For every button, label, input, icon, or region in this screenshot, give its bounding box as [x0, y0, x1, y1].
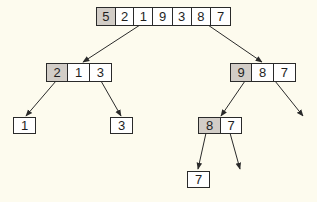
node-root: 5 2 1 9 3 8 7: [96, 7, 231, 26]
right-cell: 8: [252, 64, 273, 81]
root-cell: 9: [153, 8, 173, 25]
root-cell-pivot: 5: [97, 8, 116, 25]
edge-right-to-right-left: [221, 81, 245, 116]
root-cell: 1: [134, 8, 153, 25]
root-cell: 7: [211, 8, 230, 25]
right-cell: 7: [274, 64, 295, 81]
right-cell-pivot: 9: [231, 64, 252, 81]
leaf-cell: 3: [111, 118, 132, 133]
edges-layer: [0, 0, 317, 202]
quicksort-tree-diagram: 5 2 1 9 3 8 7 2 1 3 9 8 7 1 3 8 7 7: [0, 0, 317, 202]
edge-root-to-right: [208, 25, 262, 62]
node-left: 2 1 3: [46, 63, 112, 82]
node-right-left: 8 7: [198, 117, 242, 134]
node-right-left-left-leaf: 7: [187, 171, 210, 188]
edge-left-to-left-left: [26, 81, 56, 116]
left-cell: 3: [90, 64, 111, 81]
leaf-cell: 7: [188, 172, 209, 187]
edge-right-left-to-empty: [230, 133, 240, 169]
node-right: 9 8 7: [230, 63, 296, 82]
leaf-cell: 1: [14, 118, 35, 133]
left-cell: 1: [68, 64, 89, 81]
right-left-cell-pivot: 8: [199, 118, 221, 133]
node-left-right-leaf: 3: [110, 117, 133, 134]
root-cell: 8: [192, 8, 212, 25]
node-left-left-leaf: 1: [13, 117, 36, 134]
root-cell: 2: [116, 8, 135, 25]
left-cell-pivot: 2: [47, 64, 68, 81]
root-cell: 3: [173, 8, 192, 25]
edge-right-left-to-leaf: [198, 133, 206, 169]
right-left-cell: 7: [221, 118, 241, 133]
edge-root-to-left: [83, 25, 140, 62]
edge-right-to-empty: [275, 81, 303, 116]
edge-left-to-left-right: [101, 81, 121, 116]
